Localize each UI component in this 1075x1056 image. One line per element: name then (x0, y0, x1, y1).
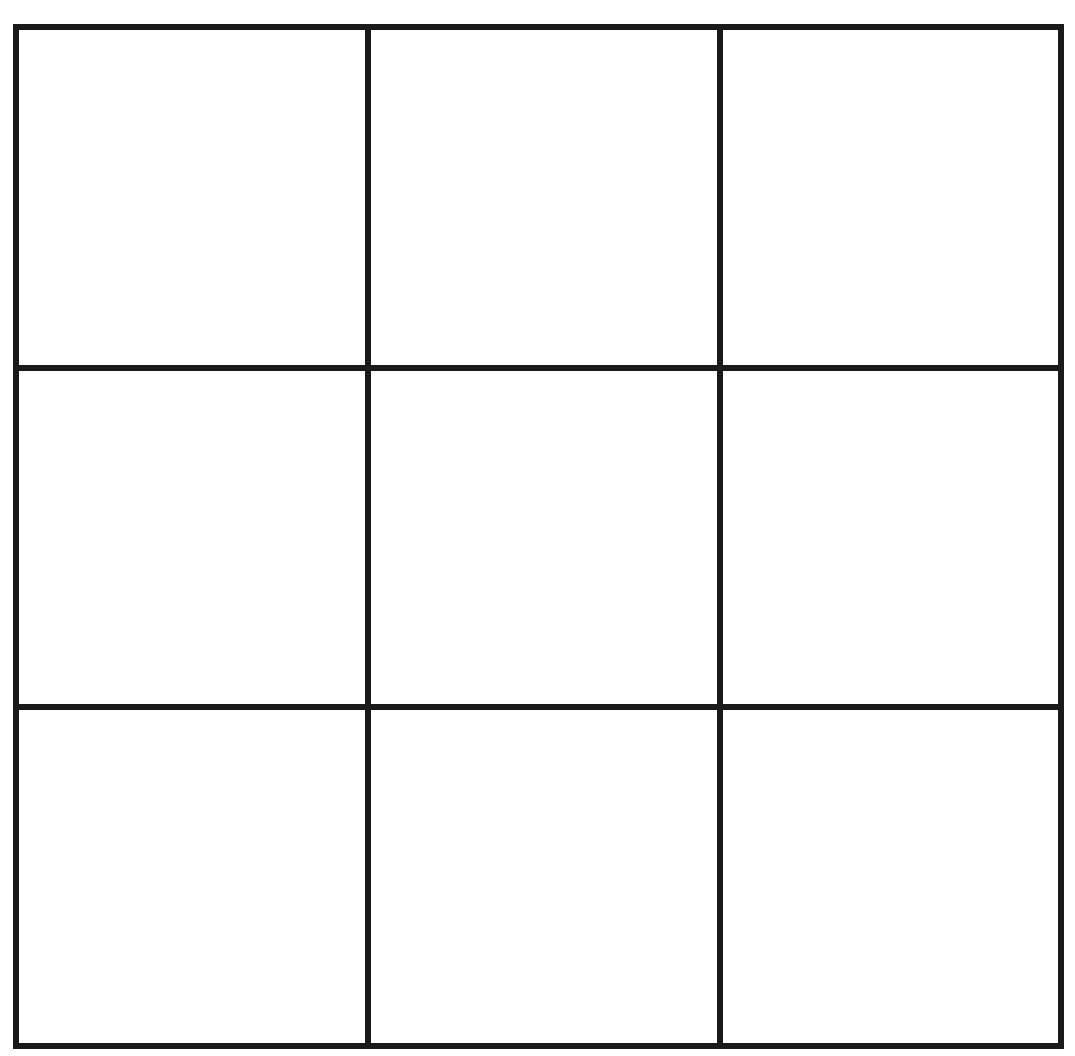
cell-r0-c1[interactable] (365, 30, 717, 365)
cell-r2-c2[interactable] (717, 704, 1058, 1043)
cell-r1-c2[interactable] (717, 365, 1058, 704)
cell-r1-c0[interactable] (19, 365, 365, 704)
cell-r1-c1[interactable] (365, 365, 717, 704)
game-board (13, 24, 1064, 1049)
cell-r0-c2[interactable] (717, 30, 1058, 365)
cell-r2-c0[interactable] (19, 704, 365, 1043)
cell-r0-c0[interactable] (19, 30, 365, 365)
cell-r2-c1[interactable] (365, 704, 717, 1043)
